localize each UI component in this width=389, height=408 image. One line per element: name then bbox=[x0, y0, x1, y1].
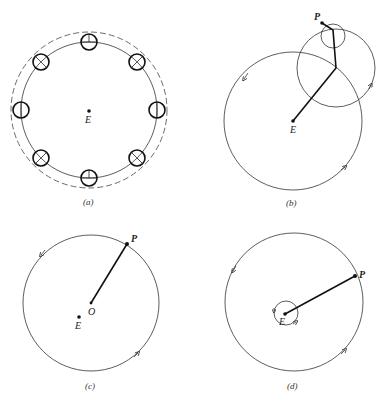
center-point bbox=[90, 302, 93, 305]
caption-b: (b) bbox=[286, 198, 297, 208]
planet-point bbox=[125, 242, 129, 246]
radius-line bbox=[91, 244, 127, 303]
earth-label: E bbox=[74, 320, 81, 331]
epicycle-diagram: E (a) E P (b) O E P (c) bbox=[0, 0, 389, 408]
caption-a: (a) bbox=[83, 197, 94, 207]
planet-label: P bbox=[131, 233, 138, 244]
earth-label: E bbox=[278, 316, 285, 327]
panel-a: E (a) bbox=[11, 32, 167, 207]
deferent-circle bbox=[225, 233, 363, 371]
planet-point bbox=[353, 274, 357, 278]
panel-b: E P (b) bbox=[224, 11, 375, 208]
earth-label: E bbox=[289, 124, 296, 135]
panel-c: O E P (c) bbox=[23, 233, 159, 391]
earth-point bbox=[291, 119, 295, 123]
earth-point bbox=[87, 109, 91, 113]
caption-c: (c) bbox=[85, 381, 95, 391]
panel-d: E P (d) bbox=[225, 233, 366, 391]
earth-point bbox=[77, 315, 81, 319]
planet-label: P bbox=[359, 269, 366, 280]
center-label: O bbox=[88, 306, 95, 317]
planet-point bbox=[320, 21, 324, 25]
earth-label: E bbox=[84, 114, 91, 125]
caption-d: (d) bbox=[287, 381, 298, 391]
radius-line bbox=[285, 276, 355, 314]
planet-label: P bbox=[314, 11, 321, 22]
